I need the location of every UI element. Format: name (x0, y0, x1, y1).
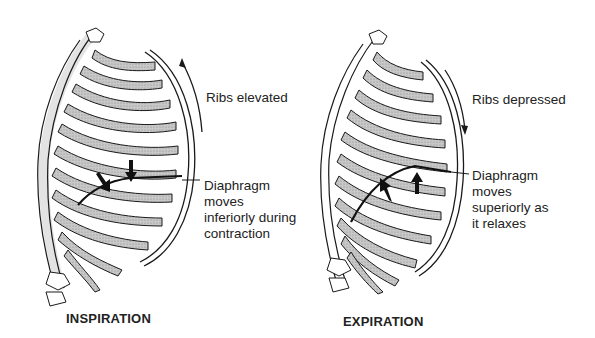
rib-depression-arrow-icon (445, 70, 465, 130)
caption-expiration: EXPIRATION (343, 314, 424, 329)
ribcage-expiration-illustration (295, 0, 595, 338)
rib-movement-label-inspiration: Ribs elevated (206, 90, 288, 105)
expiration-panel: Ribs depressed Diaphragm moves superiorl… (295, 0, 595, 338)
ribcage-inspiration-illustration (0, 0, 300, 338)
inspiration-panel: Ribs elevated Diaphragm moves inferiorly… (0, 0, 300, 338)
caption-inspiration: INSPIRATION (66, 311, 151, 326)
rib-movement-label-expiration: Ribs depressed (472, 92, 566, 107)
